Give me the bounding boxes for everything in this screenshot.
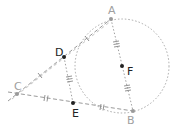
line-ca [8, 19, 111, 101]
tick-eb [100, 104, 104, 111]
label-c: C [14, 80, 22, 93]
label-d: D [55, 46, 63, 59]
label-a: A [108, 4, 116, 17]
point-f [120, 64, 124, 68]
tick-ce [44, 95, 48, 102]
point-b [131, 109, 135, 113]
tick-af [113, 41, 120, 47]
label-e: E [72, 107, 79, 120]
label-f: F [127, 65, 133, 78]
line-cb [8, 92, 133, 111]
line-ca-parallel [12, 21, 111, 99]
point-a [109, 17, 113, 21]
geometry-diagram: A B C D E F [0, 0, 177, 140]
point-e [71, 101, 75, 105]
label-b: B [127, 114, 135, 127]
tick-fb [124, 85, 131, 91]
segment-de [64, 57, 73, 103]
tick-de [66, 76, 73, 82]
